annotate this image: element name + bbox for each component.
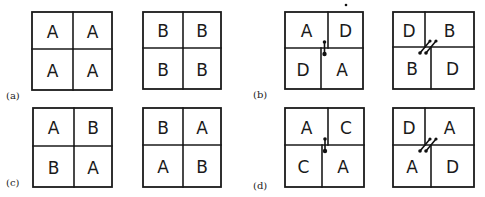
cell-bottom-right: A: [337, 157, 349, 177]
cell-top-left: D: [402, 118, 415, 138]
lattice-box: BBBB: [143, 12, 221, 89]
cell-top-left: B: [157, 118, 169, 138]
cell-bottom-left: A: [406, 157, 418, 177]
box-outline: [143, 12, 221, 89]
cell-top-right: B: [444, 21, 456, 41]
cell-top-left: B: [157, 21, 169, 41]
cell-top-left: A: [301, 118, 313, 138]
panel-b: (b)ADDADBBD: [253, 4, 474, 100]
stray-dot: [345, 4, 348, 7]
lattice-box: DBBD: [393, 12, 474, 89]
cell-bottom-left: D: [296, 60, 309, 80]
cell-bottom-left: A: [47, 61, 59, 81]
lattice-box: AAAA: [32, 12, 112, 90]
panel-d: (d)ACCADAAD: [253, 108, 474, 191]
lattice-box: ABBA: [33, 108, 112, 187]
cell-bottom-right: A: [87, 158, 99, 178]
cell-top-left: D: [402, 21, 415, 41]
box-outline: [32, 12, 112, 90]
lattice-box: ACCA: [285, 108, 364, 187]
cell-bottom-right: A: [87, 61, 99, 81]
cell-bottom-right: D: [446, 59, 459, 79]
cell-bottom-right: B: [196, 60, 208, 80]
cell-top-right: C: [340, 118, 352, 138]
domain-wall-diagram: (a)AAAABBBB(b)ADDADBBD(c)ABBABAAB(d)ACCA…: [0, 0, 485, 197]
box-outline: [143, 108, 221, 187]
cell-bottom-left: B: [406, 59, 418, 79]
cell-top-left: A: [47, 22, 59, 42]
cell-top-right: D: [339, 21, 352, 41]
cell-bottom-right: A: [336, 60, 348, 80]
lattice-box: BAAB: [143, 108, 221, 187]
cell-top-right: A: [87, 22, 99, 42]
cell-top-left: A: [48, 118, 60, 138]
panel-label: (b): [253, 89, 267, 100]
cell-bottom-right: B: [196, 157, 208, 177]
cell-top-right: A: [196, 118, 208, 138]
panel-label: (c): [6, 177, 20, 188]
cell-top-left: A: [301, 21, 313, 41]
lattice-box: DAAD: [393, 108, 474, 187]
panel-c: (c)ABBABAAB: [6, 108, 221, 188]
cell-top-right: B: [196, 21, 208, 41]
cell-top-right: A: [444, 118, 456, 138]
panel-label: (d): [253, 180, 267, 191]
panel-label: (a): [6, 90, 20, 101]
cell-bottom-left: B: [48, 158, 60, 178]
cell-top-right: B: [87, 118, 99, 138]
cell-bottom-left: A: [157, 157, 169, 177]
cell-bottom-right: D: [446, 157, 459, 177]
box-outline: [33, 108, 112, 187]
cell-bottom-left: B: [157, 60, 169, 80]
cell-bottom-left: C: [298, 157, 310, 177]
panel-a: (a)AAAABBBB: [6, 12, 221, 101]
lattice-box: ADDA: [285, 12, 363, 89]
